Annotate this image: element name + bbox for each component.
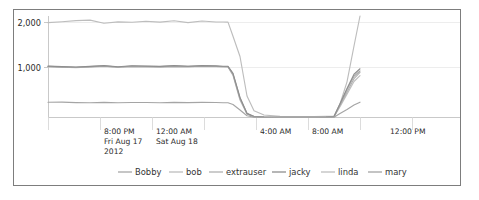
chart-panel: 2,000 1,000 [13, 9, 461, 186]
x-tick-label-4-line1: 12:00 PM [390, 127, 425, 136]
x-tick-label-3-line1: 8:00 AM [312, 127, 343, 136]
legend-label-mary[interactable]: mary [385, 167, 407, 177]
x-tick-label-0-line1: 8:00 PM [104, 127, 135, 136]
y-tick-label-2000: 2,000 [18, 18, 41, 28]
legend-label-bobby[interactable]: Bobby [135, 167, 162, 177]
legend-label-linda[interactable]: linda [338, 167, 358, 177]
x-tick-label-1-line2: Sat Aug 18 [156, 137, 198, 146]
legend-label-jacky[interactable]: jacky [288, 167, 311, 177]
x-tick-label-0-line2: Fri Aug 17 [104, 137, 143, 146]
x-tick-label-0-line3: 2012 [104, 147, 123, 156]
y-tick-label-1000: 1,000 [18, 63, 41, 73]
chart-background [14, 10, 460, 185]
legend-label-bob[interactable]: bob [186, 167, 202, 177]
x-tick-label-2-line1: 4:00 AM [260, 127, 291, 136]
line-chart: 2,000 1,000 [14, 10, 460, 185]
x-tick-label-1-line1: 12:00 AM [156, 127, 192, 136]
legend-label-extrauser[interactable]: extrauser [226, 167, 267, 177]
